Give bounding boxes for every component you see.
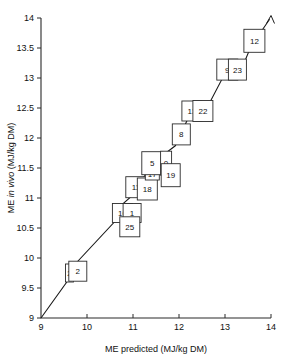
scatter-plot-svg: 99.51010.51111.51212.51313.5149101112131… xyxy=(0,0,282,358)
marker-label: 8 xyxy=(179,130,184,139)
data-point-marker: 23 xyxy=(228,59,246,80)
y-axis-tick-label: 13.5 xyxy=(16,43,34,53)
x-axis-tick-label: 13 xyxy=(220,322,230,332)
marker-label: 19 xyxy=(166,171,175,180)
x-axis-tick-label: 10 xyxy=(82,322,92,332)
y-axis-tick-label: 10.5 xyxy=(16,223,34,233)
marker-label: 25 xyxy=(125,223,134,232)
line-arrowhead-icon xyxy=(267,16,275,24)
y-axis-title: ME in vivo (MJ/kg DM) xyxy=(6,123,16,214)
y-axis-tick-label: 13 xyxy=(24,73,34,83)
marker-label: 2 xyxy=(76,267,81,276)
y-axis-title-italic: in vivo xyxy=(6,172,16,198)
y-axis-tick-label: 11.5 xyxy=(17,163,34,173)
y-axis-title-prefix: ME xyxy=(6,197,16,213)
data-point-marker: 12 xyxy=(244,29,265,52)
y-axis-tick-label: 12 xyxy=(24,133,34,143)
y-axis-tick-label: 9.5 xyxy=(21,283,34,293)
marker-label: 12 xyxy=(250,37,259,46)
marker-label: 23 xyxy=(233,66,242,75)
data-markers-group: 221612511181750198132292312 xyxy=(66,29,265,282)
data-point-marker: 22 xyxy=(193,101,213,122)
y-axis-title-suffix: (MJ/kg DM) xyxy=(6,123,16,172)
marker-label: 18 xyxy=(143,185,152,194)
data-point-marker: 8 xyxy=(172,124,190,145)
chart-figure: 99.51010.51111.51212.51313.5149101112131… xyxy=(0,0,282,358)
y-axis-tick-label: 11 xyxy=(25,193,34,203)
y-axis-tick-label: 10 xyxy=(24,253,34,263)
marker-label: 5 xyxy=(150,159,155,168)
y-axis-tick-label: 14 xyxy=(24,13,34,23)
data-point-marker: 2 xyxy=(69,261,87,281)
x-axis-tick-label: 12 xyxy=(174,322,184,332)
y-axis-tick-label: 9 xyxy=(29,313,34,323)
data-point-marker: 19 xyxy=(161,164,180,187)
x-axis-tick-label: 9 xyxy=(38,322,43,332)
y-axis-tick-label: 12.5 xyxy=(16,103,34,113)
axis-titles-group: ME predicted (MJ/kg DM)ME in vivo (MJ/kg… xyxy=(6,123,207,354)
data-point-marker: 5 xyxy=(142,152,163,175)
data-point-marker: 25 xyxy=(120,217,140,237)
x-axis-tick-label: 11 xyxy=(128,322,137,332)
data-point-marker: 18 xyxy=(137,178,157,200)
marker-label: 22 xyxy=(198,107,207,116)
x-axis-title: ME predicted (MJ/kg DM) xyxy=(105,344,207,354)
x-axis-tick-label: 14 xyxy=(266,322,276,332)
